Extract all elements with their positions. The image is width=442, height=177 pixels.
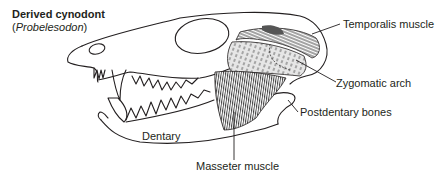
dentary-outline — [101, 120, 278, 143]
label-zygomatic-arch: Zygomatic arch — [336, 77, 411, 89]
label-postdentary-bones: Postdentary bones — [300, 106, 392, 118]
orbit — [172, 15, 231, 58]
lower-canine — [108, 98, 127, 122]
label-dentary: Dentary — [142, 130, 181, 142]
postdentary-outline — [270, 93, 295, 124]
lower-postcanines — [126, 90, 210, 120]
nostril — [88, 42, 106, 56]
label-masseter-muscle: Masseter muscle — [196, 160, 279, 172]
masseter-muscle — [215, 71, 286, 130]
label-temporalis-muscle: Temporalis muscle — [343, 18, 434, 30]
